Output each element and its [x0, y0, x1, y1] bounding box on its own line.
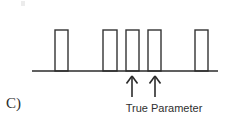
histogram-bar [148, 30, 161, 71]
histogram-bar [103, 30, 117, 71]
arrow-head-right [132, 76, 138, 84]
panel-label-c: C) [6, 96, 21, 111]
histogram-bar [55, 30, 68, 71]
arrow-head-right [155, 76, 161, 84]
figure-panel-c: True Parameter C) [0, 0, 226, 124]
arrow-head-left [127, 76, 133, 84]
arrow-annotation [127, 76, 138, 97]
true-parameter-label: True Parameter [112, 103, 216, 115]
arrow-head-left [150, 76, 156, 84]
arrow-annotation [150, 76, 161, 97]
bars-group [55, 30, 208, 71]
histogram-bar [195, 30, 208, 71]
histogram-bar [126, 30, 139, 71]
true-parameter-arrows [127, 76, 161, 97]
